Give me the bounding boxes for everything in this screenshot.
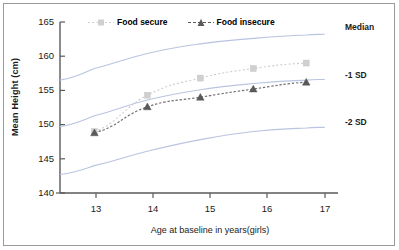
data-point (250, 66, 256, 72)
x-axis-title: Age at baseline in years(girls) (95, 225, 325, 235)
data-point (303, 60, 309, 66)
legend-triangle-marker-icon (188, 18, 214, 27)
legend-entry-food-insecure: Food insecure (188, 17, 275, 27)
data-point (144, 92, 150, 98)
y-tick-label-165: 165 (32, 16, 54, 27)
chart-legend: Food secure Food insecure (88, 17, 275, 27)
legend-square-marker-icon (88, 18, 114, 27)
legend-entry-food-secure: Food secure (88, 17, 168, 27)
legend-label-food-insecure: Food insecure (217, 17, 275, 27)
x-axis-ticks (96, 193, 325, 198)
y-axis-title: Mean Height (cm) (10, 54, 20, 140)
median-curve (60, 34, 325, 80)
y-tick-label-145: 145 (32, 153, 54, 164)
y-tick-label-140: 140 (32, 187, 54, 198)
annotation-median: Median (345, 22, 374, 32)
data-point (144, 103, 152, 110)
x-tick-label-17: 17 (313, 203, 337, 214)
x-tick-label-16: 16 (255, 203, 279, 214)
minus-1-sd-curve (60, 79, 325, 126)
data-point (197, 75, 203, 81)
x-tick-label-13: 13 (84, 203, 108, 214)
minus-2-sd-curve (60, 127, 325, 174)
legend-label-food-secure: Food secure (117, 17, 168, 27)
y-tick-label-150: 150 (32, 118, 54, 129)
chart-figure: 165 160 155 150 145 140 13 14 15 16 17 M… (0, 0, 399, 250)
x-tick-label-14: 14 (141, 203, 165, 214)
annotation-minus-2-sd: -2 SD (345, 117, 367, 127)
y-tick-label-155: 155 (32, 84, 54, 95)
reference-curves (60, 34, 325, 174)
x-tick-label-15: 15 (198, 203, 222, 214)
annotation-minus-1-sd: -1 SD (345, 70, 367, 80)
y-tick-label-160: 160 (32, 50, 54, 61)
